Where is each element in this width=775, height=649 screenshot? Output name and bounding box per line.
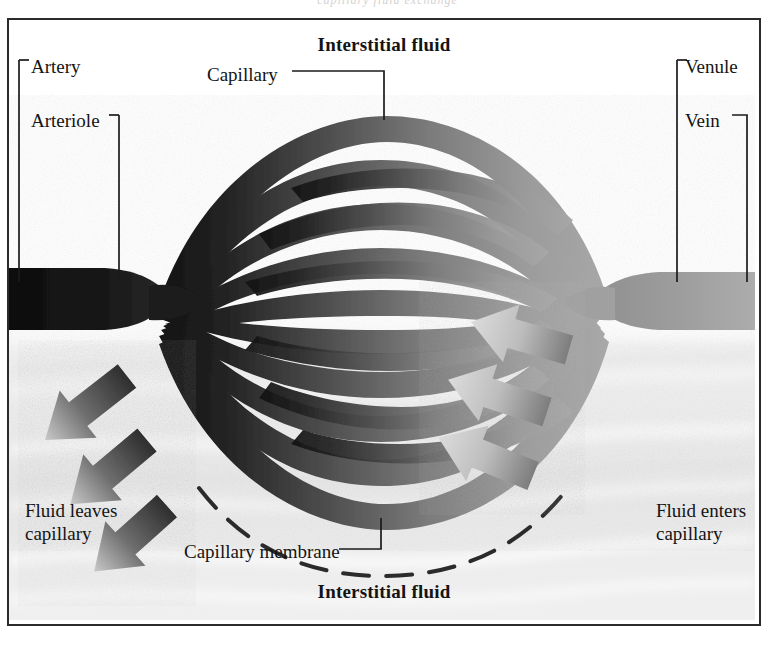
venule-label: Venule — [685, 56, 738, 78]
page-top-bleed-text: capillary fluid exchange — [0, 0, 775, 14]
interstitial-fluid-bottom-label: Interstitial fluid — [9, 581, 759, 603]
vein-label: Vein — [685, 110, 720, 132]
fluid-leaves-capillary-label: Fluid leaves capillary — [25, 500, 145, 546]
figure-frame: Interstitial fluid Interstitial fluid Ca… — [7, 18, 761, 626]
artery-label: Artery — [31, 56, 81, 78]
fluid-enters-capillary-label: Fluid enters capillary — [656, 500, 761, 546]
capillary-label: Capillary — [207, 64, 278, 86]
top-bleed-label: capillary fluid exchange — [0, 0, 775, 8]
interstitial-fluid-top-label: Interstitial fluid — [9, 34, 759, 56]
figure-page: capillary fluid exchange — [0, 0, 775, 649]
arteriole-label: Arteriole — [31, 110, 100, 132]
capillary-membrane-label: Capillary membrane — [184, 541, 340, 563]
